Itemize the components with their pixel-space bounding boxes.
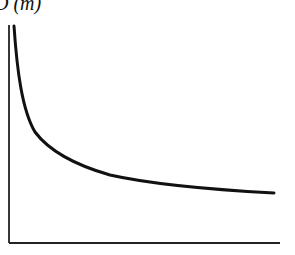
- decay-curve: [14, 26, 274, 193]
- chart-plot: [0, 0, 295, 255]
